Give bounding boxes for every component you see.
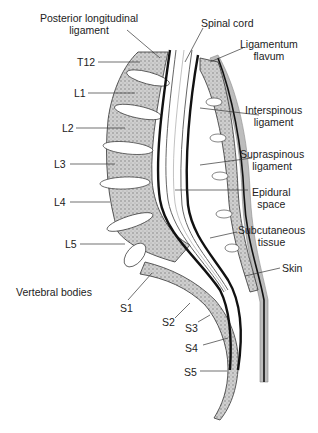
label-s4: S4 [185, 342, 198, 354]
label-l2: L2 [62, 122, 74, 134]
label-line: flavum [240, 50, 298, 62]
label-s5: S5 [184, 366, 197, 378]
label-vertebral-bodies: Vertebral bodies [16, 286, 92, 298]
label-interspinous-ligament: Interspinous ligament [245, 104, 302, 128]
label-line: Interspinous [245, 104, 302, 116]
label-s3: S3 [185, 322, 198, 334]
label-t12: T12 [77, 56, 95, 68]
label-ligamentum-flavum: Ligamentum flavum [240, 38, 298, 62]
label-line: Epidural [252, 186, 291, 198]
label-s2: S2 [162, 316, 175, 328]
label-supraspinous-ligament: Supraspinous ligament [240, 148, 304, 172]
label-spinal-cord: Spinal cord [201, 17, 254, 29]
label-line: ligament [240, 160, 304, 172]
label-skin: Skin [282, 262, 302, 274]
label-line: ligament [40, 24, 138, 36]
label-line: tissue [238, 236, 305, 248]
label-line: Supraspinous [240, 148, 304, 160]
label-l1: L1 [74, 87, 86, 99]
label-line: Ligamentum [240, 38, 298, 50]
label-l3: L3 [54, 158, 66, 170]
label-line: space [252, 198, 291, 210]
label-s1: S1 [120, 302, 133, 314]
label-l4: L4 [54, 196, 66, 208]
label-l5: L5 [65, 238, 77, 250]
sacrum [140, 262, 238, 420]
label-epidural-space: Epidural space [252, 186, 291, 210]
label-line: Posterior longitudinal [40, 12, 138, 24]
label-subcutaneous-tissue: Subcutaneous tissue [238, 224, 305, 248]
label-line: Subcutaneous [238, 224, 305, 236]
label-line: ligament [245, 116, 302, 128]
spine-diagram [0, 0, 318, 433]
label-posterior-longitudinal-ligament: Posterior longitudinal ligament [40, 12, 138, 36]
